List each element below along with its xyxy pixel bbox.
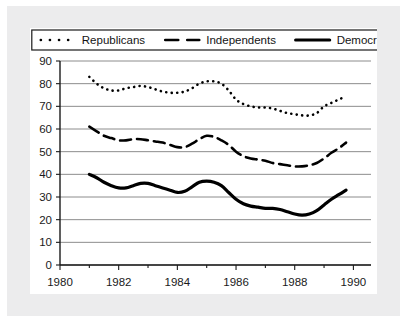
y-axis-tick-labels: 0102030405060708090 — [39, 55, 52, 271]
legend-label-republicans: Republicans — [82, 34, 146, 46]
x-axis-label-1980: 1980 — [47, 276, 73, 288]
y-axis-label-0: 0 — [46, 259, 52, 271]
x-axis-label-1988: 1988 — [282, 276, 308, 288]
x-axis-label-1984: 1984 — [165, 276, 191, 288]
y-axis-label-20: 20 — [39, 214, 52, 226]
chart-legend: RepublicansIndependentsDemocrats — [32, 30, 377, 50]
x-axis-label-1986: 1986 — [223, 276, 249, 288]
series-line-independents — [89, 127, 346, 167]
y-axis-label-10: 10 — [39, 236, 52, 248]
y-axis-label-70: 70 — [39, 100, 52, 112]
y-axis-label-30: 30 — [39, 191, 52, 203]
gridlines-group — [60, 61, 371, 265]
ticks-group — [56, 61, 353, 270]
series-line-democrats — [89, 174, 346, 215]
legend-label-democrats: Democrats — [337, 34, 377, 46]
y-axis-label-50: 50 — [39, 146, 52, 158]
series-line-republicans — [89, 77, 346, 116]
y-axis-label-90: 90 — [39, 55, 52, 67]
series-group — [89, 77, 346, 215]
chart-panel: 0102030405060708090 19801982198419861988… — [30, 28, 377, 294]
y-axis-label-80: 80 — [39, 78, 52, 90]
legend-label-independents: Independents — [206, 34, 276, 46]
x-axis-label-1982: 1982 — [106, 276, 132, 288]
x-axis-label-1990: 1990 — [341, 276, 367, 288]
y-axis-label-60: 60 — [39, 123, 52, 135]
y-axis-label-40: 40 — [39, 168, 52, 180]
x-axis-tick-labels: 198019821984198619881990 — [47, 276, 366, 288]
axes-group — [60, 61, 371, 265]
line-chart: 0102030405060708090 19801982198419861988… — [30, 28, 377, 294]
figure-root: 0102030405060708090 19801982198419861988… — [0, 0, 407, 324]
